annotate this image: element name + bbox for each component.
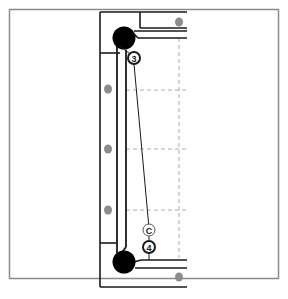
bolt-icon: [104, 145, 112, 154]
bolt-icon: [104, 85, 112, 94]
guide-grid: [126, 38, 187, 258]
callout-4: 4: [143, 241, 155, 253]
bottom-roller: [113, 251, 136, 274]
bottom-track: [134, 260, 187, 268]
callout-3-label: 3: [131, 54, 136, 64]
outer-frame: [10, 10, 279, 279]
callout-3: 3: [128, 52, 140, 64]
bolts: [104, 18, 183, 282]
top-track: [132, 31, 187, 38]
callout-4-label: 4: [146, 243, 151, 253]
bolt-icon: [104, 206, 112, 215]
track-diagram: 3 C 4: [0, 0, 288, 299]
callout-c-label: C: [146, 226, 153, 236]
vertical-rails: [117, 44, 126, 255]
bolt-icon: [175, 18, 183, 27]
callout-c: C: [143, 224, 155, 236]
bolt-icon: [175, 273, 183, 282]
top-roller: [113, 27, 136, 50]
